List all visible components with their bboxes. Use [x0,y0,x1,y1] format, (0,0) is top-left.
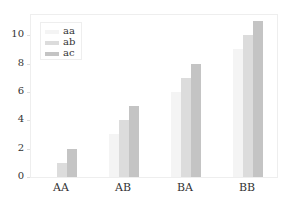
bar-aa-BB [233,49,243,177]
x-tick-label: BA [177,181,193,194]
y-tick-label: 6 [10,85,24,96]
bar-ac-AB [129,106,139,177]
legend-label: aa [63,25,75,36]
bar-ab-BA [181,78,191,177]
bar-ac-AA [67,149,77,177]
y-tick-mark [27,149,30,150]
y-tick-mark [27,177,30,178]
legend-item: ac [45,47,75,57]
y-tick-label: 0 [10,170,24,181]
y-tick-mark [27,64,30,65]
y-tick-mark [27,120,30,121]
y-tick-label: 2 [10,142,24,153]
bar-aa-BA [171,92,181,177]
legend-label: ab [63,36,75,47]
y-tick-label: 10 [10,28,24,39]
legend-swatch [45,52,59,56]
legend-item: aa [45,25,75,35]
legend: aaabac [40,22,82,60]
x-tick-label: AA [53,181,69,194]
y-tick-mark [27,92,30,93]
x-tick-label: BB [239,181,255,194]
bar-aa-AB [109,134,119,177]
legend-item: ab [45,36,75,46]
legend-label: ac [63,47,75,58]
y-tick-label: 8 [10,57,24,68]
bar-ab-AA [57,163,67,177]
x-tick-label: AB [115,181,131,194]
y-tick-mark [27,35,30,36]
bar-ab-AB [119,120,129,177]
bar-ac-BA [191,64,201,177]
bar-ac-BB [253,21,263,177]
legend-swatch [45,30,59,34]
y-tick-label: 4 [10,113,24,124]
legend-swatch [45,41,59,45]
bar-ab-BB [243,35,253,177]
